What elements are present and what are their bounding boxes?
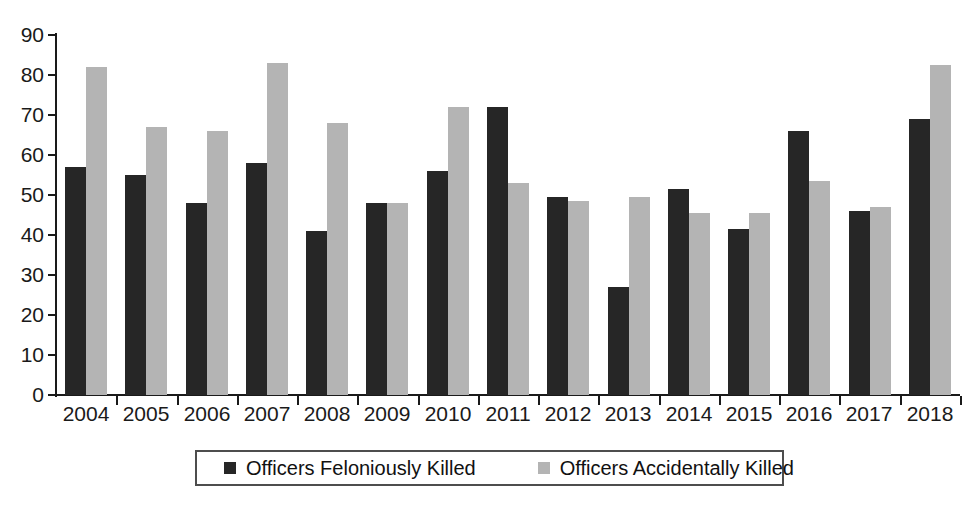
y-tick-label: 30 [0, 264, 44, 285]
y-tick-mark [48, 74, 56, 76]
bar-chart: 0102030405060708090 20042005200620072008… [0, 0, 974, 511]
bar-2011-felonious [487, 107, 508, 395]
bar-2016-accidental [809, 181, 830, 395]
bar-2012-felonious [547, 197, 568, 395]
bar-2017-felonious [849, 211, 870, 395]
y-tick-mark [48, 34, 56, 36]
bar-2009-felonious [366, 203, 387, 395]
x-tick-label: 2007 [237, 403, 297, 424]
bar-2016-felonious [788, 131, 809, 395]
bar-2018-felonious [909, 119, 930, 395]
bar-2005-felonious [125, 175, 146, 395]
y-tick-label: 0 [0, 384, 44, 405]
bar-2011-accidental [508, 183, 529, 395]
bar-2004-felonious [65, 167, 86, 395]
y-tick-mark [48, 154, 56, 156]
y-tick-mark [48, 234, 56, 236]
y-tick-mark [48, 394, 56, 396]
x-tick-label: 2014 [659, 403, 719, 424]
y-tick-label: 10 [0, 344, 44, 365]
x-tick-label: 2016 [779, 403, 839, 424]
y-axis-line [55, 33, 57, 397]
bar-2013-accidental [629, 197, 650, 395]
bar-2015-accidental [749, 213, 770, 395]
bar-2007-felonious [246, 163, 267, 395]
y-tick-label: 80 [0, 64, 44, 85]
bar-2008-felonious [306, 231, 327, 395]
bar-2014-felonious [668, 189, 689, 395]
bar-2015-felonious [728, 229, 749, 395]
chart-legend: Officers Feloniously Killed Officers Acc… [195, 450, 784, 486]
y-tick-mark [48, 194, 56, 196]
x-tick-label: 2006 [177, 403, 237, 424]
legend-label-felonious: Officers Feloniously Killed [246, 458, 476, 478]
bar-2006-accidental [207, 131, 228, 395]
y-tick-mark [48, 354, 56, 356]
bar-2006-felonious [186, 203, 207, 395]
x-tick-label: 2018 [900, 403, 960, 424]
y-tick-mark [48, 274, 56, 276]
x-tick-label: 2012 [538, 403, 598, 424]
legend-item-felonious: Officers Feloniously Killed [224, 458, 476, 478]
y-tick-label: 70 [0, 104, 44, 125]
bar-2008-accidental [327, 123, 348, 395]
x-tick-label: 2010 [418, 403, 478, 424]
y-tick-mark [48, 114, 56, 116]
bar-2010-accidental [448, 107, 469, 395]
x-tick-label: 2015 [719, 403, 779, 424]
x-tick-label: 2009 [357, 403, 417, 424]
accidental-swatch-icon [538, 462, 550, 474]
y-tick-label: 40 [0, 224, 44, 245]
bar-2017-accidental [870, 207, 891, 395]
x-tick-label: 2013 [598, 403, 658, 424]
bar-2004-accidental [86, 67, 107, 395]
x-tick-label: 2017 [839, 403, 899, 424]
x-tick-label: 2004 [56, 403, 116, 424]
x-tick-mark [960, 396, 962, 405]
bar-2005-accidental [146, 127, 167, 395]
y-tick-label: 90 [0, 24, 44, 45]
x-tick-label: 2008 [297, 403, 357, 424]
bar-2009-accidental [387, 203, 408, 395]
bar-2010-felonious [427, 171, 448, 395]
x-tick-label: 2011 [478, 403, 538, 424]
legend-item-accidental: Officers Accidentally Killed [538, 458, 794, 478]
y-tick-label: 50 [0, 184, 44, 205]
bar-2012-accidental [568, 201, 589, 395]
y-tick-label: 60 [0, 144, 44, 165]
legend-label-accidental: Officers Accidentally Killed [560, 458, 794, 478]
y-tick-mark [48, 314, 56, 316]
bar-2013-felonious [608, 287, 629, 395]
x-tick-label: 2005 [116, 403, 176, 424]
felonious-swatch-icon [224, 462, 236, 474]
bar-2007-accidental [267, 63, 288, 395]
y-tick-label: 20 [0, 304, 44, 325]
bar-2014-accidental [689, 213, 710, 395]
bar-2018-accidental [930, 65, 951, 395]
